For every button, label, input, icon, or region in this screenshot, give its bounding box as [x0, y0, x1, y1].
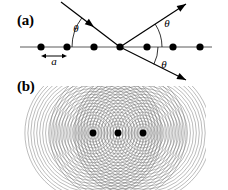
wavelet-group — [25, 65, 211, 190]
panel-b-wavelet-pattern — [0, 0, 228, 190]
wave-source-dot-0 — [90, 130, 97, 137]
wave-source-dot-2 — [140, 130, 147, 137]
scattering-figure: (a) aθθθ (b) — [0, 0, 228, 190]
wave-source-dot-1 — [115, 130, 122, 137]
